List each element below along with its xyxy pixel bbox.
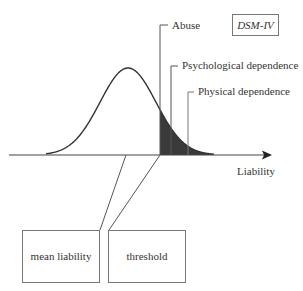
svg-text:Physical dependence: Physical dependence xyxy=(198,85,290,97)
axis-label: Liability xyxy=(237,165,275,177)
threshold-physical-dependence: Physical dependence xyxy=(188,85,290,155)
shaded-tail-region xyxy=(160,110,214,155)
svg-text:DSM-IV: DSM-IV xyxy=(236,19,275,31)
svg-text:Psychological dependence: Psychological dependence xyxy=(182,59,298,71)
svg-text:Abuse: Abuse xyxy=(172,19,200,31)
svg-text:mean liability: mean liability xyxy=(31,250,92,262)
svg-text:threshold: threshold xyxy=(127,250,168,262)
dsm-iv-box: DSM-IV xyxy=(233,15,279,36)
threshold-box: threshold xyxy=(109,231,186,283)
normal-distribution-curve xyxy=(46,68,214,154)
threshold-psychological-dependence: Psychological dependence xyxy=(171,59,298,155)
mean-connector-line xyxy=(100,155,126,230)
threshold-connector-line xyxy=(109,155,160,230)
mean-liability-box: mean liability xyxy=(23,231,100,283)
liability-diagram: Liability Abuse Psychological dependence… xyxy=(0,0,303,291)
